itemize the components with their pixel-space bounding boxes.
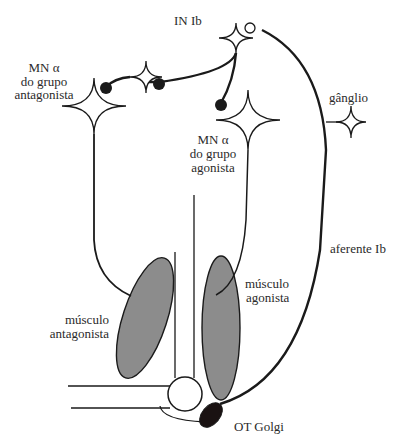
label-muscle-antagonist-1: músculo: [65, 312, 109, 327]
label-in-ib: IN Ib: [174, 13, 202, 28]
label-mn-agonist-3: agonista: [191, 160, 235, 175]
ganglion-cell: [336, 106, 366, 138]
label-mn-agonist-1: MN α: [197, 132, 228, 147]
synapse-dot-agonist-mn: [215, 99, 227, 111]
muscle-antagonist-shape: [105, 251, 186, 384]
joint-circle: [168, 377, 202, 411]
muscle-agonist-shape: [202, 256, 240, 400]
label-muscle-agonist-1: músculo: [245, 276, 289, 291]
mn-antagonist-axon: [94, 134, 131, 296]
reflex-circuit-diagram: IN Ib MN α do grupo antagonista MN α do …: [0, 0, 401, 445]
in-ib-synapse-open: [245, 23, 255, 33]
label-mn-antagonist-3: antagonista: [14, 87, 73, 102]
synapse-dot-small-in: [153, 78, 165, 90]
label-mn-agonist-2: do grupo: [190, 146, 237, 161]
label-muscle-agonist-2: agonista: [246, 290, 290, 305]
in-ib-axon-to-agonist: [221, 53, 236, 103]
synapse-dot-antagonist-mn: [100, 82, 112, 94]
bone-vertical: [175, 195, 194, 378]
bone-horizontal: [68, 386, 172, 408]
label-ganglion: gânglio: [329, 90, 368, 105]
label-mn-antagonist-1: MN α: [28, 60, 59, 75]
label-afferent-ib: aferente Ib: [330, 241, 386, 256]
label-muscle-antagonist-2: antagonista: [50, 326, 109, 341]
label-golgi: OT Golgi: [234, 419, 284, 434]
